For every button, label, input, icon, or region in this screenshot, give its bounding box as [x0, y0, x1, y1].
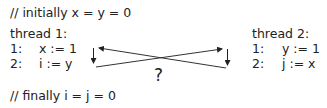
ordering-arrows [0, 0, 327, 108]
